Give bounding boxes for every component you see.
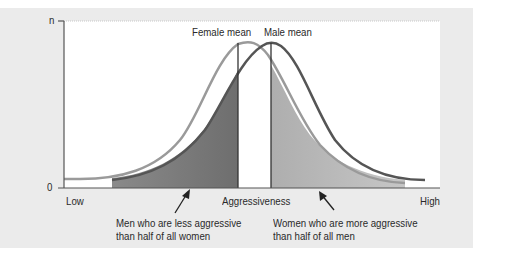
x-axis-title: Aggressiveness: [222, 195, 290, 207]
male-mean-label: Male mean: [264, 26, 312, 38]
x-label-low: Low: [66, 195, 84, 207]
plot-area: [64, 21, 440, 188]
y-tick-label-zero: 0: [47, 181, 52, 193]
annotation-men-line1: Men who are less aggressive: [116, 217, 241, 229]
arrow-left-icon: [175, 189, 190, 213]
x-label-high: High: [420, 195, 440, 207]
annotation-women-line1: Women who are more aggressive: [273, 217, 418, 229]
chart-svg: [0, 0, 508, 258]
annotation-women-line2: than half of all men: [273, 230, 355, 242]
annotation-men-line2: than half of all women: [116, 230, 210, 242]
y-tick-label-top: n: [49, 14, 54, 26]
female-mean-label: Female mean: [192, 26, 251, 38]
arrow-right-icon: [319, 191, 334, 210]
